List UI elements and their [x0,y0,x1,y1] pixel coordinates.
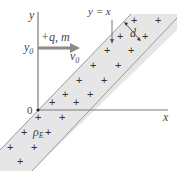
y0-label: y0 [23,40,33,56]
plus-icon: + [90,59,96,71]
plus-icon: + [7,141,13,153]
plus-icon: + [131,14,137,26]
plus-icon: + [76,74,82,86]
velocity-label: v0 [70,49,79,65]
plus-icon: + [31,141,37,153]
plus-icon: + [21,126,27,138]
charged-slab-diagram: y x 0 y0 +q, m v0 y = x d ρE + + + + + +… [0,0,177,171]
plus-icon: + [115,59,121,71]
plus-icon: + [35,111,41,123]
width-d-label: d [130,26,137,40]
plus-icon: + [117,30,123,42]
charge-mass-label: +q, m [41,30,70,44]
plus-icon: + [128,44,134,56]
plus-icon: + [49,96,55,108]
plus-icon: + [59,111,65,123]
x-axis-label: x [162,110,169,124]
plus-icon: + [17,155,23,167]
y-axis-label: y [28,8,35,22]
line-yx-label: y = x [87,5,111,17]
plus-icon: + [62,88,68,100]
plus-icon: + [142,30,148,42]
diagram-canvas: y x 0 y0 +q, m v0 y = x d ρE + + + + + +… [0,0,177,171]
origin-label: 0 [27,104,33,116]
plus-icon: + [87,88,93,100]
plus-icon: + [104,44,110,56]
plus-icon: + [45,126,51,138]
plus-icon: + [101,74,107,86]
plus-icon: + [155,14,161,26]
plus-icon: + [73,96,79,108]
